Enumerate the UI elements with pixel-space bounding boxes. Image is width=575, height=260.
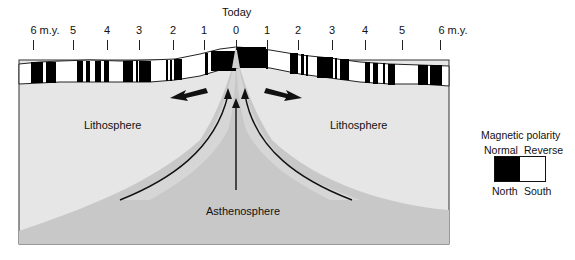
legend-north-label: North xyxy=(492,185,518,197)
tick-mark xyxy=(139,40,140,50)
tick-mark xyxy=(236,40,237,50)
tick-label: 2 xyxy=(170,24,176,36)
tick-label: 1 xyxy=(201,24,207,36)
legend-south-label: South xyxy=(524,185,551,197)
tick-label: 1 xyxy=(264,24,270,36)
legend-reverse-label: Reverse xyxy=(524,144,563,156)
tick-label: 5 xyxy=(70,24,76,36)
tick-label: 0 xyxy=(233,24,239,36)
tick-label: 5 xyxy=(399,24,405,36)
tick-mark xyxy=(332,40,333,50)
tick-label: 2 xyxy=(295,24,301,36)
tick-mark xyxy=(298,40,299,50)
tick-label: 4 xyxy=(362,24,368,36)
normal-swatch xyxy=(495,157,520,181)
reverse-swatch xyxy=(520,157,545,181)
tick-label: 3 xyxy=(329,24,335,36)
tick-mark xyxy=(107,40,108,50)
tick-label: 3 xyxy=(136,24,142,36)
tick-mark xyxy=(402,40,403,50)
lithosphere-right-label: Lithosphere xyxy=(330,119,388,131)
tick-mark xyxy=(440,40,441,50)
lithosphere-left-label: Lithosphere xyxy=(84,119,142,131)
asthenosphere-label: Asthenosphere xyxy=(206,205,280,217)
tick-mark xyxy=(73,40,74,50)
tick-mark xyxy=(204,40,205,50)
tick-mark xyxy=(173,40,174,50)
legend-title: Magnetic polarity xyxy=(481,129,560,141)
tick-mark xyxy=(365,40,366,50)
tick-label: 4 xyxy=(104,24,110,36)
tick-mark xyxy=(267,40,268,50)
tick-mark xyxy=(33,40,34,50)
legend-swatch xyxy=(494,156,546,182)
today-label: Today xyxy=(222,6,251,18)
tick-label: 6 m.y. xyxy=(438,24,467,36)
legend-normal-label: Normal xyxy=(484,144,518,156)
tick-label: 6 m.y. xyxy=(30,24,59,36)
